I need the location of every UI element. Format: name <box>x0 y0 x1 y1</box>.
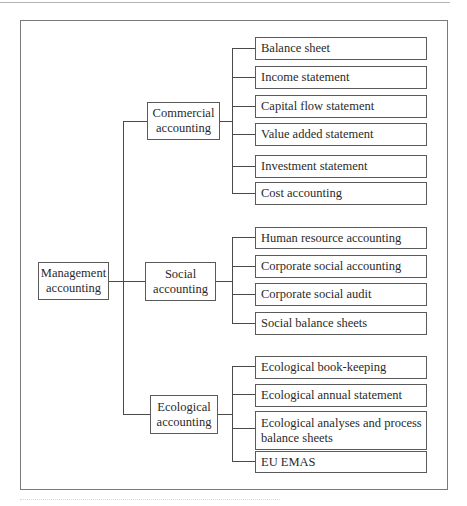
connector <box>232 166 255 167</box>
leaf-corporate-social-audit: Corporate social audit <box>255 283 427 306</box>
connector <box>216 281 232 282</box>
connector-trunk-main <box>123 121 124 415</box>
connector-trunk-commercial <box>232 48 233 194</box>
connector <box>232 394 255 395</box>
connector <box>232 134 255 135</box>
leaf-eu-emas: EU EMAS <box>255 451 427 473</box>
leaf-ecological-book-keeping: Ecological book-keeping <box>255 356 427 379</box>
leaf-label: Corporate social audit <box>261 287 371 302</box>
node-social-accounting: Socialaccounting <box>145 262 216 301</box>
connector <box>232 77 255 78</box>
node-label-line: Commercial <box>153 106 215 120</box>
node-label-line: Social <box>165 267 196 281</box>
leaf-investment-statement: Investment statement <box>255 155 427 178</box>
connector <box>232 366 255 367</box>
leaf-label: Balance sheet <box>261 41 330 56</box>
leaf-ecological-analyses: Ecological analyses and process balance … <box>255 411 427 450</box>
leaf-label: Corporate social accounting <box>261 259 401 274</box>
connector-trunk-ecological <box>232 366 233 462</box>
connector <box>232 461 255 462</box>
leaf-capital-flow-statement: Capital flow statement <box>255 95 427 118</box>
leaf-label: Ecological book-keeping <box>261 360 386 375</box>
connector <box>232 266 255 267</box>
node-label-line: accounting <box>153 282 208 296</box>
leaf-label: Cost accounting <box>261 186 342 201</box>
leaf-label: Investment statement <box>261 159 368 174</box>
leaf-label: Ecological annual statement <box>261 388 402 403</box>
connector <box>232 193 255 194</box>
node-ecological-accounting: Ecologicalaccounting <box>150 395 218 434</box>
leaf-value-added-statement: Value added statement <box>255 123 427 146</box>
leaf-income-statement: Income statement <box>255 66 427 89</box>
leaf-label: Human resource accounting <box>261 231 401 246</box>
node-label-line: accounting <box>157 415 212 429</box>
connector <box>220 121 232 122</box>
connector <box>232 294 255 295</box>
leaf-human-resource-accounting: Human resource accounting <box>255 227 427 249</box>
leaf-label: Ecological analyses and process balance … <box>261 416 422 446</box>
connector <box>109 281 145 282</box>
connector <box>232 106 255 107</box>
leaf-ecological-annual-statement: Ecological annual statement <box>255 384 427 407</box>
connector <box>232 237 255 238</box>
connector <box>123 121 147 122</box>
leaf-label: Income statement <box>261 70 350 85</box>
node-label-line: Management <box>41 266 106 280</box>
leaf-social-balance-sheets: Social balance sheets <box>255 312 427 335</box>
leaf-label: Value added statement <box>261 127 373 142</box>
leaf-label: EU EMAS <box>261 455 316 470</box>
node-label-line: accounting <box>156 121 211 135</box>
node-management-accounting: Managementaccounting <box>38 262 109 300</box>
caption-cutoff <box>20 499 280 505</box>
leaf-label: Social balance sheets <box>261 316 367 331</box>
connector <box>232 48 255 49</box>
leaf-balance-sheet: Balance sheet <box>255 37 427 60</box>
connector <box>232 428 255 429</box>
node-label-line: Ecological <box>157 400 210 414</box>
node-commercial-accounting: Commercialaccounting <box>147 102 220 140</box>
connector <box>232 323 255 324</box>
top-rule <box>0 2 450 3</box>
connector <box>123 414 150 415</box>
leaf-corporate-social-accounting: Corporate social accounting <box>255 255 427 278</box>
leaf-cost-accounting: Cost accounting <box>255 182 427 205</box>
connector <box>218 414 232 415</box>
node-label-line: accounting <box>46 281 101 295</box>
connector-trunk-social <box>232 237 233 324</box>
leaf-label: Capital flow statement <box>261 99 374 114</box>
